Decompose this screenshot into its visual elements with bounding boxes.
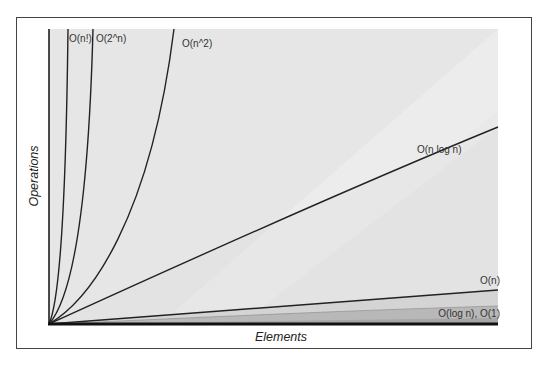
label-o-exponential: O(2^n) bbox=[96, 33, 126, 44]
label-o-nlogn: O(n log n) bbox=[417, 144, 461, 155]
label-o-quadratic: O(n^2) bbox=[182, 38, 212, 49]
y-axis-title: Operations bbox=[27, 145, 41, 206]
label-o-linear: O(n) bbox=[480, 275, 500, 286]
label-o-factorial: O(n!) bbox=[69, 33, 92, 44]
big-o-chart: O(n!) O(2^n) O(n^2) O(n log n) O(n) O(lo… bbox=[0, 0, 552, 368]
label-o-log-const: O(log n), O(1) bbox=[438, 308, 500, 319]
x-axis-title: Elements bbox=[255, 330, 307, 344]
